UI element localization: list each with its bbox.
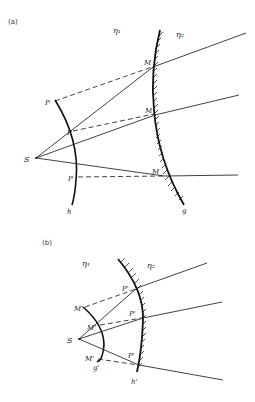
panel-a-point-p1: P [44, 99, 50, 107]
panel-b-wavefront-label: g' [93, 364, 99, 372]
panel-a-source-label: S [24, 155, 30, 164]
panel-b-label: (b) [42, 239, 52, 247]
panel-a-dashed-connectors [55, 67, 163, 177]
panel-b-rays [79, 263, 223, 380]
panel-b-point-m2: M' [86, 324, 96, 332]
panel-b-point-p3: P' [127, 352, 135, 360]
panel-a-wavefront-curve [55, 100, 77, 205]
panel-b-mirror-label: h' [131, 378, 138, 386]
panel-a-medium-2: η₂ [176, 30, 184, 39]
panel-a-point-m2: M [144, 107, 153, 115]
panel-a-wavefront-label: h [67, 208, 72, 216]
panel-a-point-m1: M [143, 59, 152, 67]
panel-b-source-label: S [67, 336, 73, 345]
panel-b-point-p2: P' [128, 310, 136, 318]
panel-a-mirror-label: g [182, 207, 187, 215]
panel-a-label: (a) [8, 18, 18, 26]
panel-a: (a) η₁ η₂ [8, 18, 246, 216]
panel-a-medium-1: η₁ [113, 26, 121, 35]
panel-b-point-m3: M' [84, 355, 94, 363]
panel-a-point-m3: M [151, 168, 160, 176]
panel-b-point-p1: P' [121, 285, 129, 293]
panel-a-rays [36, 33, 246, 176]
diagram-canvas: (a) η₁ η₂ [0, 0, 255, 402]
panel-a-point-p3: P [67, 175, 73, 183]
panel-b-point-m1: M' [73, 305, 83, 313]
panel-a-point-p2: P [66, 129, 72, 137]
panel-b: (b) η₁ η₂ h' g' [42, 239, 223, 386]
panel-b-medium-2: η₂ [147, 261, 155, 270]
panel-b-medium-1: η₁ [82, 259, 90, 268]
